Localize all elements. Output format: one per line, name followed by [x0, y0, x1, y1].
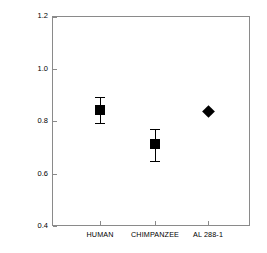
y-tick-mark-1-2 [53, 17, 57, 18]
marker-human [95, 105, 105, 115]
error-bar-cap-upper-human [95, 97, 105, 98]
x-tick-label-chimpanzee: CHIMPANZEE [131, 230, 179, 239]
y-tick-label-0-4: 0.4 [26, 222, 48, 230]
error-bar-cap-lower-human [95, 123, 105, 124]
y-tick-mark-1-0 [53, 69, 57, 70]
marker-chimpanzee [150, 139, 160, 149]
y-tick-mark-0-4 [53, 226, 57, 227]
x-tick-mark-chimpanzee [155, 221, 156, 225]
x-tick-mark-human [100, 221, 101, 225]
x-tick-mark-al-288-1 [208, 221, 209, 225]
y-tick-mark-0-8 [53, 121, 57, 122]
chart-figure: SI AREA/(FEM HEAD DIAM x HUM HEAD DIAM)-… [0, 0, 267, 253]
y-tick-label-1-2: 1.2 [26, 12, 48, 20]
x-tick-label-human: HUMAN [86, 230, 113, 239]
y-tick-label-0-6: 0.6 [26, 170, 48, 178]
error-bar-cap-lower-chimpanzee [150, 161, 160, 162]
y-tick-mark-0-6 [53, 174, 57, 175]
plot-area [52, 16, 250, 226]
x-tick-label-al-288-1: AL 288-1 [193, 230, 223, 239]
y-tick-label-1-0: 1.0 [26, 65, 48, 73]
marker-al-288-1 [202, 105, 215, 118]
error-bar-cap-upper-chimpanzee [150, 129, 160, 130]
y-tick-label-0-8: 0.8 [26, 117, 48, 125]
